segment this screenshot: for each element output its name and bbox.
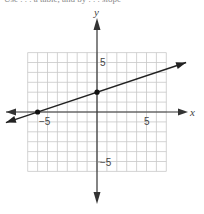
x-axis-label: x: [189, 106, 195, 118]
y-tick-label-neg5: −5: [100, 157, 112, 168]
coordinate-plane: y x −5 5 5 −5: [0, 0, 204, 214]
y-axis: [94, 18, 101, 204]
y-tick-label-5: 5: [100, 57, 106, 68]
x-tick-label-5: 5: [144, 116, 150, 127]
y-axis-label: y: [93, 6, 99, 18]
x-axis-arrow-right-icon: [178, 109, 188, 116]
y-axis-arrow-up-icon: [94, 18, 101, 30]
x-axis-arrow-left-icon: [6, 109, 16, 116]
data-point: [94, 90, 99, 95]
line-arrow-left-icon: [6, 116, 17, 123]
data-point: [35, 109, 40, 114]
x-tick-label-neg5: −5: [39, 116, 51, 127]
y-axis-arrow-down-icon: [94, 192, 101, 204]
line-arrow-right-icon: [176, 62, 187, 69]
